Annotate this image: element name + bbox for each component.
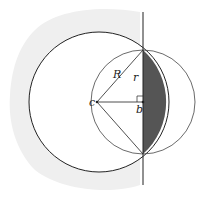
point-c [96,101,99,104]
geometry-diagram: R r c b [0,0,205,197]
label-b: b [136,103,143,116]
shaded-lens [143,50,166,154]
label-c: c [89,96,95,109]
label-R: R [112,68,121,81]
label-r: r [133,71,139,84]
